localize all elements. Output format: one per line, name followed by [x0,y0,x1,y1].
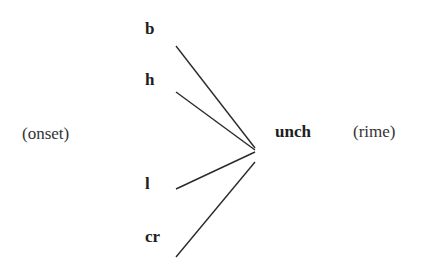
onset-b: b [145,20,154,37]
onset-h: h [145,71,154,88]
onset-l: l [145,175,150,192]
onset-cr: cr [145,228,160,245]
rime-unch: unch [275,123,311,140]
edge-b-unch [176,46,255,148]
edge-cr-unch [176,162,255,257]
onset-category-label: (onset) [22,125,69,142]
rime-category-label: (rime) [353,123,395,140]
edge-h-unch [176,92,255,150]
edge-l-unch [176,152,255,189]
